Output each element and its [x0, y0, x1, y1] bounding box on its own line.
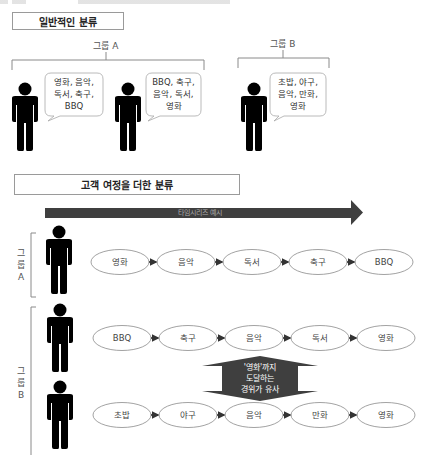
person-icon	[47, 381, 73, 450]
journey-node: 만화	[291, 409, 349, 421]
journey-node: 음악	[225, 332, 283, 344]
bubble-line: 영화, 음악,	[45, 76, 103, 88]
label-char: 룹	[15, 377, 27, 389]
bubble-line: 영화	[146, 100, 201, 112]
person-icon	[47, 304, 73, 373]
similarity-note: '영화'까지 도달하는 경위가 유사	[222, 362, 298, 395]
journey-node: BBQ	[355, 256, 413, 268]
label-char: 그	[15, 247, 27, 259]
journey-node: 음악	[157, 256, 215, 268]
bubble-line: 독서, 축구,	[45, 88, 103, 100]
note-line: '영화'까지	[222, 362, 298, 373]
group-a-vertical-label: 그 룹 A	[15, 247, 27, 283]
bubble-text: 초밥, 야구, 음악, 만화, 영화	[270, 76, 326, 112]
bubble-line: 초밥, 야구,	[270, 76, 326, 88]
person-icon	[115, 83, 141, 152]
bubble-line: 음악, 만화,	[270, 88, 326, 100]
timeline-label: 타임시리즈 예시	[150, 208, 250, 218]
journey-node: 영화	[357, 409, 415, 421]
person-icon	[12, 83, 38, 152]
section-title-general: 일반적인 분류	[12, 12, 124, 30]
group-b-vertical-label: 그 룹 B	[15, 365, 27, 401]
label-char: A	[15, 271, 27, 283]
group-a-label: 그룹 A	[76, 39, 136, 52]
journey-node: 음악	[225, 409, 283, 421]
journey-node: 야구	[159, 409, 217, 421]
journey-node: BBQ	[93, 332, 151, 344]
note-line: 경위가 유사	[222, 384, 298, 395]
label-char: 룹	[15, 259, 27, 271]
journey-node: 축구	[289, 256, 347, 268]
bubble-text: 영화, 음악, 독서, 축구, BBQ	[45, 76, 103, 112]
bubble-text: BBQ, 축구, 음악, 독서, 영화	[146, 76, 201, 112]
note-line: 도달하는	[222, 373, 298, 384]
journey-node: 축구	[159, 332, 217, 344]
bubble-line: BBQ	[45, 100, 103, 112]
bubble-line: 음악, 독서,	[146, 88, 201, 100]
diagram-graphics	[0, 0, 422, 455]
journey-node: 초밥	[93, 409, 151, 421]
bubble-line: 영화	[270, 100, 326, 112]
group-b-vbracket	[31, 307, 36, 455]
person-icon	[241, 83, 267, 152]
journey-node: 독서	[223, 256, 281, 268]
group-b-label: 그룹 B	[253, 37, 313, 50]
group-a-vbracket	[31, 233, 36, 297]
journey-node: 영화	[91, 256, 149, 268]
group-b-bracket	[238, 50, 329, 68]
journey-node: 영화	[357, 332, 415, 344]
group-a-bracket	[12, 52, 204, 70]
person-icon	[46, 226, 72, 295]
label-char: 그	[15, 365, 27, 377]
label-char: B	[15, 389, 27, 401]
section-title-journey: 고객 여정을 더한 분류	[14, 174, 240, 195]
bubble-line: BBQ, 축구,	[146, 76, 201, 88]
journey-node: 독서	[291, 332, 349, 344]
